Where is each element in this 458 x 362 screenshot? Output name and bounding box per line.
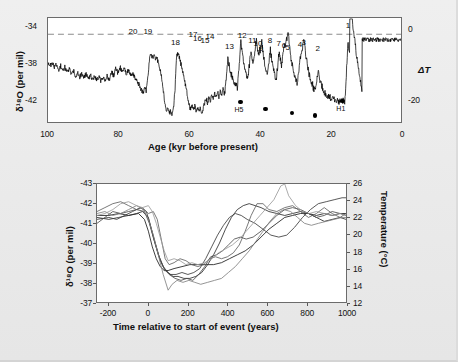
panel-b-y2tick: 12 xyxy=(353,298,362,308)
panel-a-event-number: 14 xyxy=(206,33,215,41)
heinrich-event-dot xyxy=(340,99,344,103)
figure-page: -34 -38 -42 0 -20 100 80 60 40 20 0 δ¹⁸O… xyxy=(0,0,458,362)
panel-b-event-curve xyxy=(97,206,346,291)
panel-b-xtick-mark xyxy=(307,303,308,306)
panel-b-y2tick: 26 xyxy=(353,178,362,188)
panel-b-y2-axis-label: Temperature (°C) xyxy=(379,191,390,267)
panel-b-xtick: -200 xyxy=(96,308,120,318)
panel-a-xtick: 80 xyxy=(110,129,126,139)
panel-b-xtick: 400 xyxy=(215,308,239,318)
panel-b-y2tick-mark xyxy=(347,252,350,253)
panel-a-xtick: 20 xyxy=(323,129,339,139)
panel-b-x-axis-label: Time relative to start of event (years) xyxy=(113,321,279,332)
panel-b-ytick: -38 xyxy=(74,278,92,288)
heinrich-event-label: H5 xyxy=(234,106,243,113)
panel-b-svg xyxy=(97,184,346,302)
panel-b-event-curve xyxy=(97,208,346,281)
panel-a-ytick: -42 xyxy=(25,95,37,105)
panel-b-ytick: -41 xyxy=(74,218,92,228)
panel-b-ytick: -39 xyxy=(74,258,92,268)
panel-b-ytick: -43 xyxy=(74,178,92,188)
panel-b-y2tick-mark xyxy=(347,234,350,235)
panel-b-xtick: 600 xyxy=(255,308,279,318)
panel-b-y2tick-mark xyxy=(347,286,350,287)
panel-a-xtick: 60 xyxy=(181,129,197,139)
panel-b-ytick: -42 xyxy=(74,198,92,208)
panel-b-xtick: 200 xyxy=(176,308,200,318)
panel-a-event-number: 18 xyxy=(171,39,180,47)
panel-b-y2tick: 16 xyxy=(353,264,362,274)
ngrip-d18o-curve xyxy=(48,19,401,116)
panel-b-y2tick-mark xyxy=(347,269,350,270)
panel-b-xtick-mark xyxy=(148,303,149,306)
panel-b-event-stack: -37-38-39-40-41-42-43 1214161820222426 -… xyxy=(0,165,458,362)
panel-a-event-number: 3 xyxy=(301,39,305,47)
panel-b-xtick-mark xyxy=(267,303,268,306)
panel-b-y2tick: 24 xyxy=(353,195,362,205)
panel-a-event-number: 1 xyxy=(346,22,350,30)
panel-b-event-curve xyxy=(97,204,346,279)
panel-b-ytick-mark xyxy=(93,243,96,244)
heinrich-event-label: H1 xyxy=(336,105,345,112)
panel-b-ytick: -37 xyxy=(74,298,92,308)
panel-a-event-number: 20 xyxy=(128,28,137,36)
panel-b-ytick-mark xyxy=(93,283,96,284)
panel-a-ytick: -38 xyxy=(25,58,37,68)
panel-a-event-number: 12 xyxy=(238,32,247,40)
panel-b-xtick-mark xyxy=(108,303,109,306)
panel-a-ice-core-record: -34 -38 -42 0 -20 100 80 60 40 20 0 δ¹⁸O… xyxy=(0,0,458,165)
panel-b-ytick-mark xyxy=(93,263,96,264)
panel-b-plot-area xyxy=(96,183,347,303)
panel-a-ytick: -34 xyxy=(25,21,37,31)
panel-b-xtick-mark xyxy=(227,303,228,306)
panel-a-y2tick: 0 xyxy=(408,24,413,34)
heinrich-event-dot xyxy=(238,100,242,104)
panel-b-y2tick-mark xyxy=(347,183,350,184)
panel-b-ytick-mark xyxy=(93,223,96,224)
panel-a-event-number: 13 xyxy=(225,43,234,51)
panel-a-event-number: 8 xyxy=(268,37,272,45)
panel-a-plot-area xyxy=(47,17,402,123)
panel-b-y2tick-mark xyxy=(347,217,350,218)
panel-b-xtick-mark xyxy=(188,303,189,306)
panel-b-xtick: 800 xyxy=(295,308,319,318)
heinrich-event-dot xyxy=(263,107,267,111)
panel-b-y2tick: 14 xyxy=(353,281,362,291)
panel-a-event-number: 19 xyxy=(143,28,152,36)
panel-b-xtick: 1000 xyxy=(335,308,359,318)
panel-a-y2tick: -20 xyxy=(408,95,420,105)
panel-a-event-number: 2 xyxy=(316,45,320,53)
panel-b-y2tick: 20 xyxy=(353,229,362,239)
panel-a-event-number: 5 xyxy=(285,44,289,52)
panel-a-y-axis-label: δ¹⁸O (per mil) xyxy=(14,51,25,112)
panel-b-y2tick-mark xyxy=(347,200,350,201)
panel-a-event-number: 9 xyxy=(259,45,263,53)
panel-a-xtick: 0 xyxy=(394,129,410,139)
panel-b-ytick-mark xyxy=(93,303,96,304)
panel-b-event-curve xyxy=(97,214,346,271)
panel-b-y-axis-label: δ¹⁸O (per mil) xyxy=(64,226,75,287)
panel-b-ytick-mark xyxy=(93,183,96,184)
panel-a-xtick: 100 xyxy=(39,129,55,139)
panel-b-xtick-mark xyxy=(347,303,348,306)
heinrich-event-dot xyxy=(313,113,317,117)
panel-a-x-axis-label: Age (kyr before present) xyxy=(148,141,258,152)
panel-a-event-number: 7 xyxy=(277,40,281,48)
panel-b-y2tick: 22 xyxy=(353,212,362,222)
panel-b-xtick: 0 xyxy=(136,308,160,318)
panel-a-y2-axis-label: ΔT xyxy=(418,64,430,75)
panel-a-svg xyxy=(48,18,401,122)
panel-b-ytick-mark xyxy=(93,203,96,204)
panel-b-ytick: -40 xyxy=(74,238,92,248)
panel-a-xtick: 40 xyxy=(252,129,268,139)
panel-b-y2tick: 18 xyxy=(353,247,362,257)
